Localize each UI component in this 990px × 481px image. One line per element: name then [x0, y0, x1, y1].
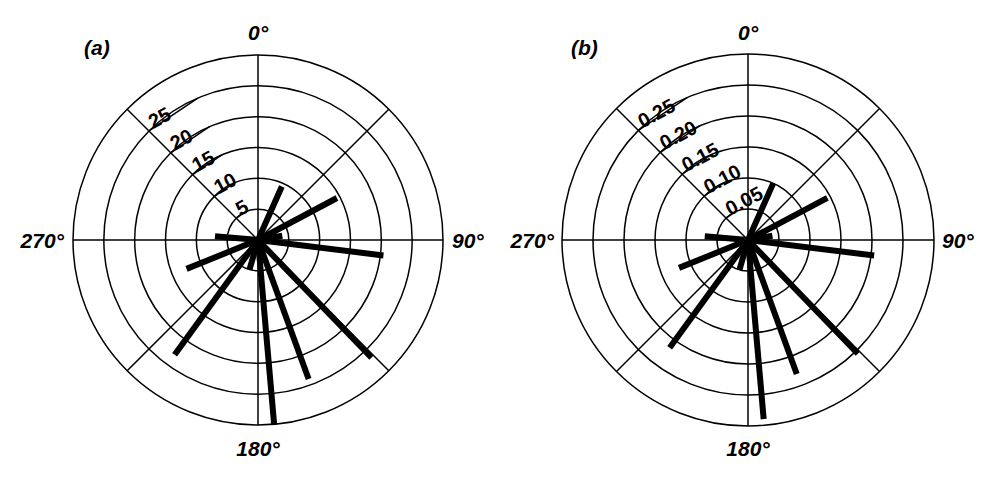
data-ray-10: [215, 236, 258, 240]
angle-label-south-a: 180°: [236, 437, 280, 460]
angle-label-east-b: 90°: [942, 229, 974, 252]
angle-label-north-a: 0°: [248, 21, 269, 44]
angle-label-east-a: 90°: [452, 229, 484, 252]
polar-rays-a: [175, 186, 384, 424]
radial-tick-label-4: 25: [145, 103, 175, 133]
radial-tick-label-2: 15: [188, 146, 218, 176]
angle-label-south-b: 180°: [726, 437, 770, 460]
radial-tick-label-1: 10: [210, 168, 240, 198]
grid-spoke-225deg: [616, 240, 748, 372]
grid-spoke-45deg: [258, 109, 389, 240]
panel-a-label-group: (a): [84, 36, 110, 59]
polar-rays-b: [670, 183, 875, 419]
polar-plot-a-svg: (a) 510152025 0° 90° 180° 270°: [0, 0, 495, 481]
data-ray-10: [705, 236, 748, 240]
grid-spoke-225deg: [127, 240, 258, 371]
polar-panel-a: (a) 510152025 0° 90° 180° 270°: [0, 0, 495, 481]
angle-label-west-a: 270°: [20, 229, 65, 252]
data-ray-4: [748, 240, 858, 354]
polar-plot-b-svg: (b) 0.050.100.150.200.25 0° 90° 180° 270…: [495, 0, 990, 481]
radial-tick-label-3: 20: [166, 124, 196, 154]
polar-panel-b: (b) 0.050.100.150.200.25 0° 90° 180° 270…: [495, 0, 990, 481]
panel-b-label: (b): [571, 36, 598, 59]
panel-a-label: (a): [84, 36, 110, 59]
polar-figure: (a) 510152025 0° 90° 180° 270° (b) 0.050…: [0, 0, 990, 481]
angle-label-west-b: 270°: [510, 229, 555, 252]
grid-spoke-45deg: [748, 108, 880, 240]
radial-tick-labels-a: 510152025: [145, 98, 252, 220]
panel-b-label-group: (b): [571, 36, 598, 59]
angle-label-north-b: 0°: [738, 21, 759, 44]
data-ray-3: [258, 240, 383, 255]
data-ray-3: [748, 240, 874, 255]
